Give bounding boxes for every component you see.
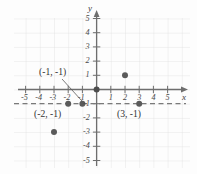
- x-tick-label-1: 1: [109, 93, 113, 102]
- y-tick-label-neg3: -3: [83, 127, 90, 136]
- y-axis-label: y: [88, 3, 92, 13]
- y-tick-label-neg5: -5: [83, 156, 90, 165]
- y-tick-label-neg4: -4: [83, 141, 90, 150]
- y-tick-label-2: 2: [86, 56, 90, 65]
- x-tick-label-3: 3: [137, 93, 141, 102]
- x-tick-label-neg5: -5: [21, 93, 28, 102]
- y-tick-label-neg1: -1: [83, 99, 90, 108]
- y-axis-arrow: [94, 10, 100, 17]
- x-tick-label-5: 5: [166, 93, 170, 102]
- point-label-neg1-neg1: (-1, -1): [39, 66, 66, 77]
- plot-canvas: [0, 0, 197, 174]
- x-tick-label-neg2: -2: [64, 93, 71, 102]
- x-axis-label: x: [182, 92, 186, 102]
- x-tick-label-neg3: -3: [49, 93, 56, 102]
- y-tick-label-neg2: -2: [83, 113, 90, 122]
- y-tick-label-1: 1: [86, 70, 90, 79]
- point-label-neg2-neg1: (-2, -1): [34, 108, 61, 119]
- point-neg3-neg3: [51, 129, 57, 135]
- x-tick-label-4: 4: [151, 93, 155, 102]
- coordinate-plane-figure: -5 -4 -3 -2 -1 1 2 3 4 5 5 4 3 2 1 -1 -2…: [0, 0, 197, 174]
- point-origin: [94, 87, 100, 93]
- point-2-1: [122, 72, 128, 78]
- y-tick-label-5: 5: [86, 14, 90, 23]
- x-tick-label-2: 2: [123, 93, 127, 102]
- point-label-3-neg1: (3, -1): [117, 108, 141, 119]
- y-tick-label-4: 4: [86, 28, 90, 37]
- y-tick-label-3: 3: [86, 42, 90, 51]
- x-tick-label-neg4: -4: [35, 93, 42, 102]
